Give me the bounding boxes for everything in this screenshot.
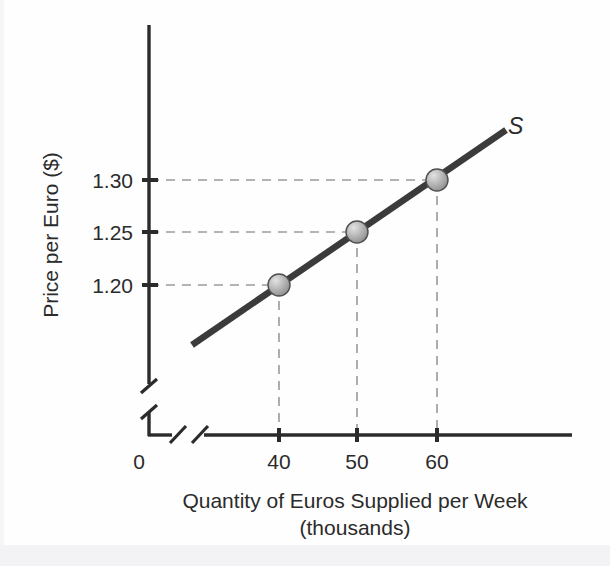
supply-curve-label: S: [508, 113, 524, 139]
y-tick-label-1.25: 1.25: [92, 221, 133, 244]
y-tick-label-1.20: 1.20: [92, 274, 133, 297]
x-tick-label-60: 60: [425, 450, 448, 473]
x-axis-title-line1: Quantity of Euros Supplied per Week: [182, 489, 528, 512]
origin-label: 0: [133, 450, 145, 473]
y-axis-title: Price per Euro ($): [39, 152, 62, 318]
chart-canvas: 1.30 1.25 1.20 40 50 60 0 S Price per Eu…: [0, 0, 610, 566]
x-tick-label-40: 40: [267, 450, 290, 473]
data-point-40-1.20: [268, 274, 290, 296]
supply-curve-figure: 1.30 1.25 1.20 40 50 60 0 S Price per Eu…: [0, 0, 610, 566]
data-point-50-1.25: [346, 221, 368, 243]
horizontal-guide-lines: [150, 180, 437, 285]
y-tick-label-1.30: 1.30: [92, 169, 133, 192]
data-point-60-1.30: [426, 169, 448, 191]
x-tick-label-50: 50: [345, 450, 368, 473]
x-axis-title-line2: (thousands): [300, 516, 411, 539]
x-axis-break-mark: [170, 426, 208, 443]
vertical-guide-lines: [279, 180, 437, 435]
